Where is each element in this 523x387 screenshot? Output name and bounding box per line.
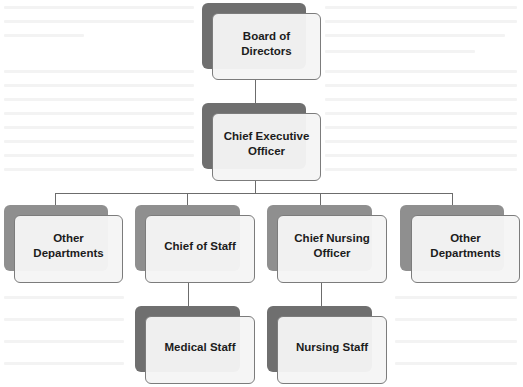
node-label: Board of Directors bbox=[217, 29, 316, 59]
node-box: Chief Nursing Officer bbox=[277, 215, 387, 283]
connector-horizontal-bus bbox=[55, 193, 453, 194]
node-box: Other Departments bbox=[14, 215, 123, 283]
connector-ceo-down bbox=[255, 181, 256, 193]
node-label: Medical Staff bbox=[165, 340, 236, 355]
node-label: Chief Nursing Officer bbox=[282, 231, 382, 261]
node-label: Chief Executive Officer bbox=[224, 129, 310, 159]
node-box: Chief Executive Officer bbox=[212, 113, 321, 181]
connector-to-chief-nursing-officer bbox=[320, 193, 321, 205]
connector-cos-medical bbox=[188, 283, 189, 306]
node-label: Nursing Staff bbox=[296, 340, 368, 355]
connector-to-chief-of-staff bbox=[187, 193, 188, 205]
connector-to-other-departments-right bbox=[452, 193, 453, 205]
node-box: Other Departments bbox=[411, 215, 520, 283]
node-label: Chief of Staff bbox=[164, 239, 236, 254]
node-label: Other Departments bbox=[33, 231, 103, 261]
node-box: Chief of Staff bbox=[145, 215, 255, 283]
node-box: Board of Directors bbox=[212, 13, 321, 80]
connector-to-other-departments-left bbox=[55, 193, 56, 205]
node-box: Medical Staff bbox=[145, 316, 255, 384]
connector-board-ceo bbox=[255, 80, 256, 103]
connector-cno-nursing bbox=[321, 283, 322, 306]
node-label: Other Departments bbox=[416, 231, 515, 261]
node-box: Nursing Staff bbox=[277, 316, 387, 384]
